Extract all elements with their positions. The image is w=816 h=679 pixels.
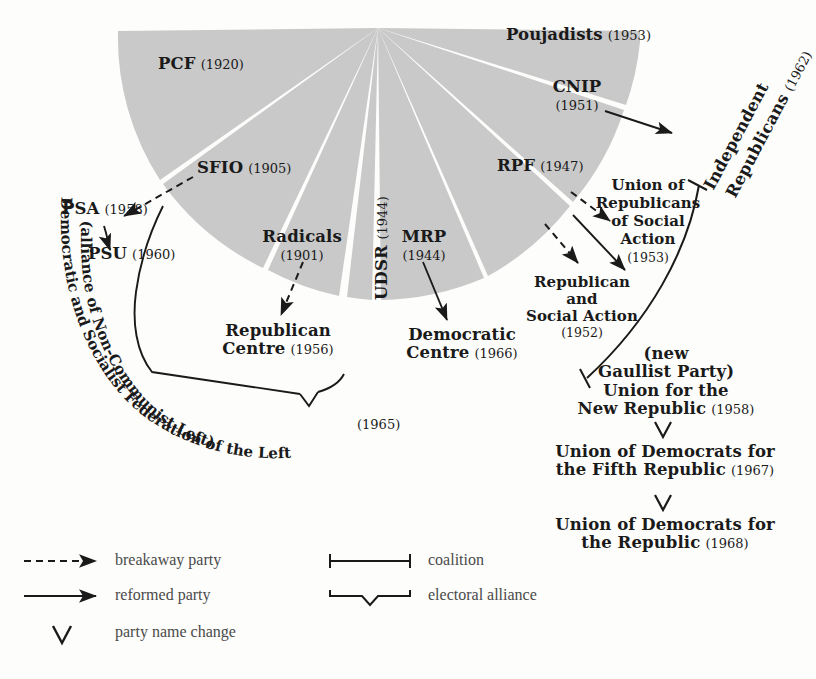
legend-label-breakaway: breakaway party	[115, 551, 221, 569]
legend-label-coalition: coalition	[428, 551, 484, 569]
legend-label-name-change: party name change	[115, 623, 236, 641]
label-fgds-year: (1965)	[357, 415, 400, 433]
coalition-bracket-icon	[330, 554, 410, 568]
chevron-down-icon	[53, 626, 71, 643]
electoral-alliance-brace-icon	[330, 590, 410, 605]
legend-label-electoral-alliance: electoral alliance	[428, 586, 537, 604]
legend-label-reformed: reformed party	[115, 586, 211, 604]
